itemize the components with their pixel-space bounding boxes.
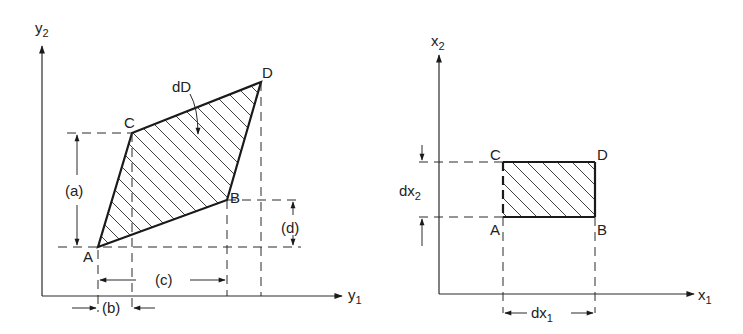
dD-pointer-arrow [190, 94, 198, 134]
vertex-A-label: A [490, 221, 500, 238]
x2-axis-label: x2 [431, 32, 445, 52]
parallelogram-hatch [0, 40, 515, 320]
dimension-a-label: (a) [65, 182, 83, 199]
dimension-dx2-label: dx2 [399, 182, 421, 202]
vertex-B-label: B [597, 221, 607, 238]
vertex-D-label: D [597, 146, 608, 163]
dimension-b-label: (b) [102, 299, 120, 316]
vertex-B-label: B [230, 189, 240, 206]
x1-axis-label: x1 [698, 286, 712, 306]
rectangle-hatch [440, 150, 690, 250]
vertex-A-label: A [83, 248, 93, 265]
right-diagram: x2 x1 [399, 32, 712, 324]
dimension-c-label: (c) [155, 271, 173, 288]
y1-axis-label: y1 [348, 286, 362, 306]
vertex-C-label: C [124, 114, 135, 131]
left-diagram: y2 y1 [0, 19, 515, 320]
y2-axis-label: y2 [35, 19, 49, 39]
dimension-dx1-label: dx1 [531, 304, 553, 324]
vertex-C-label: C [490, 146, 501, 163]
region-dD-label: dD [172, 78, 191, 95]
figure-canvas: y2 y1 [0, 0, 743, 334]
vertex-D-label: D [262, 64, 273, 81]
dimension-d-label: (d) [281, 219, 299, 236]
